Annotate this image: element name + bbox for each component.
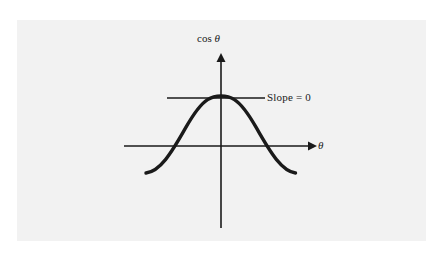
- x-axis-label: θ: [318, 140, 323, 151]
- y-axis-arrow-icon: [217, 53, 226, 62]
- y-axis-label: cos θ: [197, 33, 220, 44]
- y-axis-label-variable: θ: [214, 32, 219, 44]
- cosine-plot: [0, 0, 443, 259]
- x-axis-arrow-icon: [308, 142, 317, 151]
- slope-annotation-label: Slope = 0: [267, 92, 311, 103]
- y-axis-label-function: cos: [197, 32, 212, 44]
- figure-screenshot: cos θ θ Slope = 0: [0, 0, 443, 259]
